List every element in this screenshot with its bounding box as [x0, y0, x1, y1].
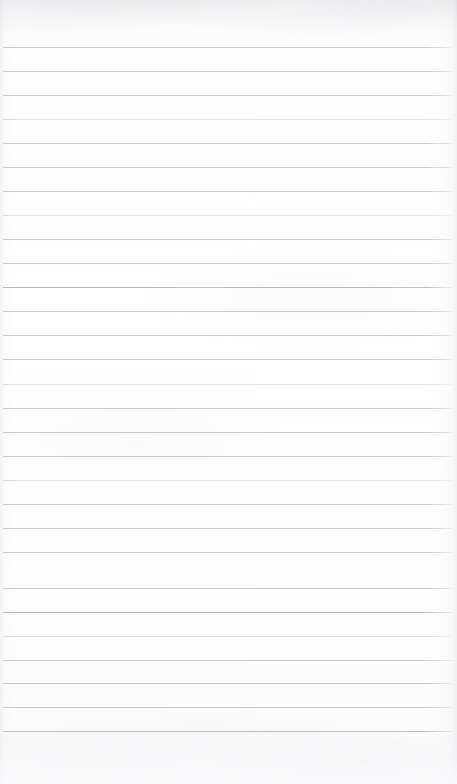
paper-background — [0, 0, 457, 784]
scanned-page — [0, 0, 457, 784]
